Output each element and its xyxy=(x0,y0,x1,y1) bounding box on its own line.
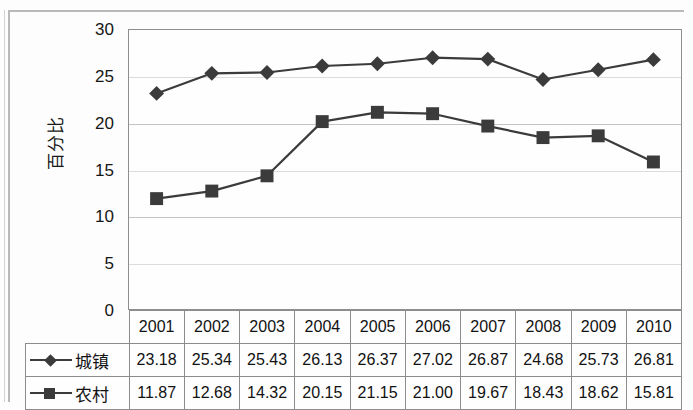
series-urban xyxy=(149,50,661,101)
data-point-diamond xyxy=(149,86,164,101)
data-point-diamond xyxy=(204,66,219,81)
data-point-diamond xyxy=(260,65,275,80)
legend-label: 农村 xyxy=(75,381,109,406)
table-year-header: 2010 xyxy=(626,311,681,344)
legend-entry-rural: 农村 xyxy=(26,377,130,410)
table-year-header: 2006 xyxy=(405,311,460,344)
y-axis-tick-label: 10 xyxy=(95,208,114,225)
y-axis-tick-label: 20 xyxy=(95,114,114,131)
plot-area xyxy=(128,29,682,310)
series-rural xyxy=(150,106,660,205)
table-cell: 15.81 xyxy=(626,377,681,410)
table-cell: 26.13 xyxy=(295,344,350,377)
y-axis-title: 百分比 xyxy=(42,83,67,203)
table-cell: 23.18 xyxy=(129,344,184,377)
table-year-header: 2001 xyxy=(129,311,184,344)
data-point-square xyxy=(316,115,329,128)
table-year-header: 2004 xyxy=(295,311,350,344)
y-axis-tick-label: 15 xyxy=(95,161,114,178)
y-axis-tick-label: 30 xyxy=(95,21,114,38)
data-table: 2001200220032004200520062007200820092010… xyxy=(25,310,682,410)
table-cell: 11.87 xyxy=(129,377,184,410)
legend-square-marker-icon xyxy=(30,386,72,400)
data-point-square xyxy=(537,131,550,144)
data-point-square xyxy=(481,120,494,133)
table-cell: 24.68 xyxy=(516,344,571,377)
table-row: 农村11.8712.6814.3220.1521.1521.0019.6718.… xyxy=(26,377,682,410)
data-point-square xyxy=(261,169,274,182)
table-cell: 14.32 xyxy=(240,377,295,410)
table-cell: 26.81 xyxy=(626,344,681,377)
y-axis-tick-label: 25 xyxy=(95,67,114,84)
y-axis-tick-label: 5 xyxy=(105,255,114,272)
data-point-square xyxy=(205,185,218,198)
table-year-header: 2008 xyxy=(516,311,571,344)
table-corner-cell xyxy=(26,311,130,344)
table-year-header: 2007 xyxy=(461,311,516,344)
legend-diamond-marker-icon xyxy=(30,353,72,367)
data-point-diamond xyxy=(315,59,330,74)
table-year-header: 2009 xyxy=(571,311,626,344)
table-cell: 18.43 xyxy=(516,377,571,410)
legend-marker xyxy=(44,388,55,399)
table-year-header: 2003 xyxy=(240,311,295,344)
data-point-diamond xyxy=(646,52,661,67)
table-cell: 21.00 xyxy=(405,377,460,410)
series-line xyxy=(157,58,654,94)
table-header-row: 2001200220032004200520062007200820092010 xyxy=(26,311,682,344)
series-layer xyxy=(129,30,681,309)
table-cell: 21.15 xyxy=(350,377,405,410)
table-cell: 25.43 xyxy=(240,344,295,377)
table-cell: 26.87 xyxy=(461,344,516,377)
table-cell: 12.68 xyxy=(184,377,239,410)
series-line xyxy=(157,112,654,198)
table-cell: 25.73 xyxy=(571,344,626,377)
data-point-diamond xyxy=(536,72,551,87)
y-axis-tick-labels: 051015202530 xyxy=(72,29,120,309)
data-point-square xyxy=(592,129,605,142)
chart-outer-border-left xyxy=(4,10,5,402)
data-point-diamond xyxy=(370,56,385,71)
data-point-diamond xyxy=(480,52,495,67)
data-point-square xyxy=(426,107,439,120)
data-point-diamond xyxy=(591,62,606,77)
legend-marker xyxy=(44,354,57,367)
data-point-square xyxy=(371,106,384,119)
table-cell: 26.37 xyxy=(350,344,405,377)
data-point-square xyxy=(150,192,163,205)
table-row: 城镇23.1825.3425.4326.1326.3727.0226.8724.… xyxy=(26,344,682,377)
table-cell: 20.15 xyxy=(295,377,350,410)
data-point-square xyxy=(647,156,660,169)
table-cell: 25.34 xyxy=(184,344,239,377)
data-point-diamond xyxy=(425,50,440,65)
table-year-header: 2002 xyxy=(184,311,239,344)
table-cell: 27.02 xyxy=(405,344,460,377)
chart-container: 百分比 051015202530 20012002200320042005200… xyxy=(0,0,693,410)
table-cell: 18.62 xyxy=(571,377,626,410)
legend-label: 城镇 xyxy=(75,348,109,373)
legend-entry-urban: 城镇 xyxy=(26,344,130,377)
table-year-header: 2005 xyxy=(350,311,405,344)
table-cell: 19.67 xyxy=(461,377,516,410)
